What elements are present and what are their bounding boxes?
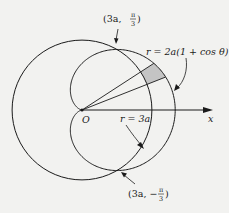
origin-label: O	[82, 114, 90, 125]
svg-text:π: π	[131, 11, 136, 19]
ray-upper	[82, 63, 154, 110]
arrowhead-icon	[174, 84, 180, 91]
svg-text:): )	[137, 13, 141, 24]
circle-label-leader	[126, 125, 141, 145]
svg-text:π: π	[159, 186, 164, 194]
svg-text:(3a,: (3a,	[103, 13, 121, 24]
origin-point	[80, 108, 83, 111]
ray-lower	[82, 77, 166, 110]
svg-text:3: 3	[131, 20, 135, 28]
lower-intersection-leader	[124, 175, 135, 184]
svg-text:(3a, −: (3a, −	[128, 188, 157, 199]
lower-intersection-label: (3a, − π 3 )	[128, 186, 169, 203]
svg-text:3: 3	[159, 195, 163, 203]
arrowhead-icon	[114, 38, 119, 44]
svg-text:): )	[165, 188, 169, 199]
circle-equation-label: r = 3a	[120, 113, 151, 124]
polar-area-diagram: O x r = 3a r = 2a(1 + cos θ) (3a, π 3 ) …	[0, 0, 229, 213]
cardioid-label-leader	[177, 58, 187, 88]
cardioid-equation-label: r = 2a(1 + cos θ)	[146, 46, 229, 57]
x-axis-label: x	[208, 113, 214, 124]
shaded-area-element	[141, 63, 166, 84]
upper-intersection-label: (3a, π 3 )	[103, 11, 141, 28]
